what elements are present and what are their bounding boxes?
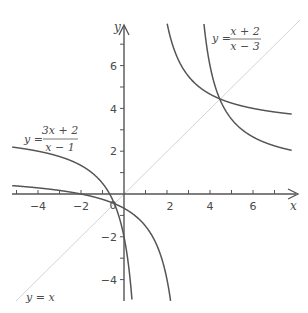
- x-tick-label: −4: [30, 200, 46, 213]
- svg-text:x + 2: x + 2: [230, 25, 259, 38]
- eq-label-y-equals-x: y = x: [25, 291, 55, 304]
- x-tick-label: 4: [207, 200, 214, 213]
- svg-text:x − 3: x − 3: [230, 40, 259, 53]
- y-axis-label: y: [113, 20, 121, 34]
- svg-text:y =: y =: [23, 133, 43, 146]
- x-tick-label: 6: [250, 200, 257, 213]
- y-tick-label: 2: [110, 145, 117, 158]
- svg-text:x − 1: x − 1: [45, 141, 74, 154]
- curves: [12, 24, 292, 301]
- x-axis-label: x: [290, 199, 297, 213]
- y-tick-label: 4: [110, 103, 117, 116]
- svg-text:3x + 2: 3x + 2: [42, 124, 78, 137]
- identity-line: [16, 20, 300, 301]
- eq-label-x-plus-2-over-x-minus-3: y = x + 2 x − 3: [211, 25, 261, 53]
- x-tick-label: −2: [73, 200, 89, 213]
- y-tick-label: −2: [101, 231, 117, 244]
- y-tick-label: 6: [110, 60, 117, 73]
- x-tick-label: 2: [167, 200, 174, 213]
- function-graph: −4 −2 2 4 6 0 6 4 2 −2 −4 y x y = x + 2 …: [0, 0, 308, 313]
- svg-text:y =: y =: [211, 32, 231, 45]
- y-tick-label: −4: [101, 274, 117, 287]
